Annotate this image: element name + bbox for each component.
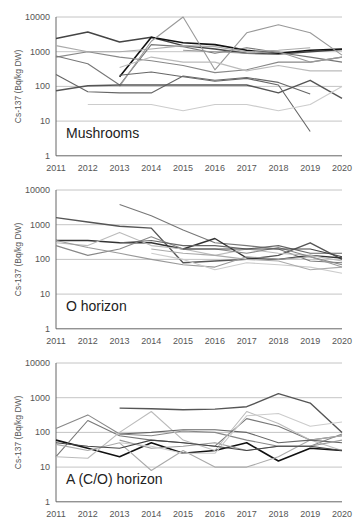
y-axis-label: Cs-137 (Bq/kg DW) [13,222,23,296]
y-tick-label: 1 [45,324,50,334]
y-tick-label: 100 [35,81,50,91]
x-tick-label: 2015 [173,509,193,519]
x-tick-label: 2019 [300,336,320,346]
data-series-line [56,440,342,461]
x-tick-label: 2012 [78,163,98,173]
y-tick-label: 1 [45,151,50,161]
x-tick-label: 2017 [237,509,257,519]
x-tick-label: 2013 [110,336,130,346]
x-tick-label: 2013 [110,509,130,519]
x-tick-label: 2015 [173,163,193,173]
figure: 1101001000100002011201220132014201520162… [0,0,361,532]
x-tick-label: 2016 [205,336,225,346]
data-series-line [120,57,342,71]
x-tick-label: 2017 [237,336,257,346]
data-series-line [120,72,311,132]
x-tick-label: 2020 [332,163,352,173]
y-axis-label: Cs-137 (Bq/kg DW) [13,49,23,123]
panel-title: Mushrooms [66,125,139,141]
y-tick-label: 10000 [25,358,50,368]
y-tick-label: 1 [45,497,50,507]
mushrooms-chart: 1101001000100002011201220132014201520162… [13,12,352,173]
chart-figure: 1101001000100002011201220132014201520162… [0,0,361,532]
x-tick-label: 2018 [268,163,288,173]
x-tick-label: 2017 [237,163,257,173]
x-tick-label: 2014 [141,336,161,346]
x-tick-label: 2019 [300,163,320,173]
x-tick-label: 2014 [141,163,161,173]
x-tick-label: 2011 [46,336,65,346]
y-tick-label: 100 [35,427,50,437]
x-tick-label: 2011 [46,509,65,519]
x-tick-label: 2019 [300,509,320,519]
y-tick-label: 10 [40,116,50,126]
x-tick-label: 2018 [268,336,288,346]
x-tick-label: 2011 [46,163,65,173]
x-tick-label: 2016 [205,163,225,173]
data-series-line [88,86,342,110]
x-tick-label: 2020 [332,336,352,346]
x-tick-label: 2018 [268,509,288,519]
o-horizon-chart: 1101001000100002011201220132014201520162… [13,185,352,346]
y-tick-label: 10000 [25,185,50,195]
data-series-line [56,80,342,98]
y-tick-label: 1000 [30,47,50,57]
panel-title: O horizon [66,298,127,314]
y-tick-label: 1000 [30,220,50,230]
x-tick-label: 2013 [110,163,130,173]
x-tick-label: 2016 [205,509,225,519]
x-tick-label: 2015 [173,336,193,346]
y-tick-label: 10000 [25,12,50,22]
x-tick-label: 2012 [78,336,98,346]
y-axis-label: Cs-137 (Bq/kg DW) [13,395,23,469]
x-tick-label: 2020 [332,509,352,519]
y-tick-label: 100 [35,254,50,264]
y-tick-label: 10 [40,289,50,299]
panel-title: A (C/O) horizon [66,471,162,487]
a-horizon-chart: 1101001000100002011201220132014201520162… [13,358,352,519]
x-tick-label: 2014 [141,509,161,519]
y-tick-label: 1000 [30,393,50,403]
x-tick-label: 2012 [78,509,98,519]
y-tick-label: 10 [40,462,50,472]
